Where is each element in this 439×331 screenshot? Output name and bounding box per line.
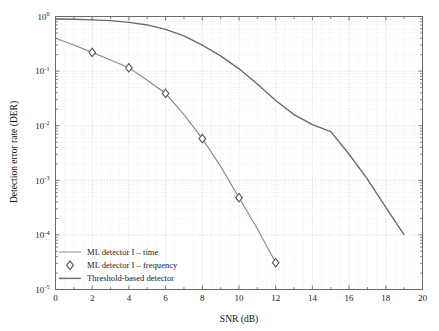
x-tick-label: 0 xyxy=(53,293,58,303)
x-tick-label: 18 xyxy=(381,293,391,303)
x-tick-label: 20 xyxy=(418,293,428,303)
x-tick-label: 10 xyxy=(235,293,245,303)
y-axis-title: Detection error rate (DER) xyxy=(9,101,20,203)
x-tick-label: 2 xyxy=(90,293,95,303)
x-tick-label: 16 xyxy=(345,293,355,303)
x-tick-label: 8 xyxy=(200,293,205,303)
legend-item-label: ML detector I – time xyxy=(87,247,158,257)
x-tick-label: 12 xyxy=(271,293,280,303)
x-tick-label: 6 xyxy=(163,293,168,303)
chart-figure: 02468101214161820 10010-110-210-310-410-… xyxy=(0,0,439,331)
chart-svg: 02468101214161820 10010-110-210-310-410-… xyxy=(0,0,439,331)
legend-item-label: ML detector I – frequency xyxy=(87,260,178,270)
x-tick-label: 14 xyxy=(308,293,318,303)
legend-item-label: Threshold-based detector xyxy=(87,273,174,283)
x-axis-title: SNR (dB) xyxy=(220,314,258,325)
x-tick-label: 4 xyxy=(127,293,132,303)
